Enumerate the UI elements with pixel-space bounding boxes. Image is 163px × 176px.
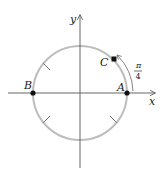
point-c [112, 57, 117, 62]
y-axis-label: y [69, 13, 77, 26]
label-c: C [100, 56, 109, 69]
arc-label-denominator: 4 [136, 72, 141, 81]
point-a [124, 90, 129, 95]
arc-label-numerator: π [135, 61, 142, 70]
x-axis-label: x [149, 95, 156, 108]
label-a: A [116, 81, 125, 94]
label-b: B [23, 79, 32, 92]
unit-circle-diagram: y x A B C π 4 [0, 0, 163, 176]
